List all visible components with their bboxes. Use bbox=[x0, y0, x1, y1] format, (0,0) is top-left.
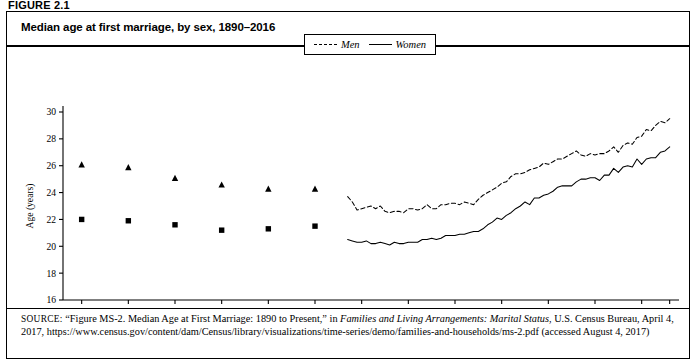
legend-item-men: Men bbox=[314, 39, 360, 50]
y-tick-label: 28 bbox=[46, 133, 56, 144]
y-tick-label: 24 bbox=[46, 187, 56, 198]
y-tick-label: 18 bbox=[46, 268, 56, 279]
dashed-line-icon bbox=[314, 44, 337, 45]
chart-svg: 1618202224262830189019001910192019301940… bbox=[7, 46, 691, 308]
marker-square-women bbox=[172, 222, 177, 227]
source-note: SOURCE: “Figure MS-2. Median Age at Firs… bbox=[21, 313, 677, 338]
marker-triangle-men bbox=[125, 164, 131, 170]
source-text-part1: “Figure MS-2. Median Age at First Marria… bbox=[63, 313, 340, 324]
y-tick-label: 22 bbox=[46, 214, 56, 225]
series-line-men bbox=[348, 119, 670, 213]
marker-triangle-men bbox=[78, 161, 84, 167]
y-tick-label: 30 bbox=[46, 106, 56, 117]
marker-square-women bbox=[312, 223, 317, 228]
legend-label-women: Women bbox=[396, 39, 427, 50]
chart-legend: Men Women bbox=[304, 34, 436, 55]
legend-item-women: Women bbox=[369, 39, 427, 50]
legend-label-men: Men bbox=[341, 39, 360, 50]
source-publication: Families and Living Arrangements: Marita… bbox=[340, 313, 549, 324]
marker-triangle-men bbox=[312, 185, 318, 191]
y-tick-label: 16 bbox=[46, 294, 56, 305]
plot-area: 1618202224262830189019001910192019301940… bbox=[7, 46, 691, 308]
marker-square-women bbox=[79, 217, 84, 222]
marker-square-women bbox=[266, 226, 271, 231]
series-line-women bbox=[348, 147, 670, 245]
marker-triangle-men bbox=[172, 175, 178, 181]
y-tick-label: 20 bbox=[46, 241, 56, 252]
source-divider bbox=[7, 308, 689, 309]
solid-line-icon bbox=[369, 44, 392, 45]
marker-triangle-men bbox=[218, 181, 224, 187]
y-axis-label: Age (years) bbox=[24, 183, 36, 228]
chart-title: Median age at first marriage, by sex, 18… bbox=[21, 21, 275, 33]
marker-triangle-men bbox=[265, 185, 271, 191]
y-tick-label: 26 bbox=[46, 160, 56, 171]
source-prefix: SOURCE: bbox=[21, 314, 63, 324]
figure-frame: Median age at first marriage, by sex, 18… bbox=[6, 11, 690, 359]
marker-square-women bbox=[126, 218, 131, 223]
marker-square-women bbox=[219, 227, 224, 232]
